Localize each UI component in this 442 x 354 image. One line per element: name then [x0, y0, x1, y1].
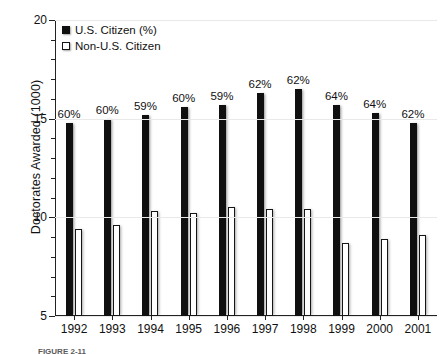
gridline [55, 119, 437, 120]
y-tick-label: 10 [34, 210, 47, 224]
x-tick [227, 316, 228, 320]
x-tick [74, 316, 75, 320]
bar-group: 59% [208, 20, 246, 316]
bar-non-us-citizen [419, 235, 426, 316]
y-tick [51, 79, 55, 80]
x-tick-label-2000: 2000 [366, 322, 393, 336]
y-tick [51, 138, 55, 139]
bar-non-us-citizen [113, 225, 120, 316]
x-tick-label-1997: 1997 [252, 322, 279, 336]
bar-non-us-citizen [190, 213, 197, 316]
x-tick [380, 316, 381, 320]
bar-us-citizen [219, 105, 226, 316]
y-tick [51, 257, 55, 258]
x-tick [303, 316, 304, 320]
bar-groups: 60%60%59%60%59%62%62%64%64%62% [55, 20, 437, 316]
y-tick [51, 99, 55, 100]
bar-us-citizen [142, 115, 149, 316]
x-tick-label-1992: 1992 [61, 322, 88, 336]
y-tick [51, 59, 55, 60]
x-tick [112, 316, 113, 320]
y-tick [51, 40, 55, 41]
bar-group: 60% [55, 20, 93, 316]
bar-group: 59% [131, 20, 169, 316]
bar-group: 60% [93, 20, 131, 316]
bar-data-label: 64% [363, 98, 386, 110]
x-tick-label-1996: 1996 [214, 322, 241, 336]
y-tick [51, 277, 55, 278]
bar-group: 64% [322, 20, 360, 316]
y-tick-label: 20 [34, 13, 47, 27]
x-tick [189, 316, 190, 320]
bar-us-citizen [372, 113, 379, 316]
bar-group: 62% [246, 20, 284, 316]
x-tick-label-1995: 1995 [175, 322, 202, 336]
bar-data-label: 60% [96, 104, 119, 116]
bar-data-label: 62% [287, 74, 310, 86]
bar-data-label: 64% [325, 90, 348, 102]
x-tick [151, 316, 152, 320]
bar-us-citizen [295, 89, 302, 316]
bar-us-citizen [66, 123, 73, 316]
legend-label-non-us-citizen: Non-U.S. Citizen [75, 38, 161, 54]
x-tick-label-2001: 2001 [405, 322, 432, 336]
gridline [55, 20, 437, 21]
bar-group: 62% [399, 20, 437, 316]
legend-swatch-dark-icon [62, 26, 70, 34]
bar-non-us-citizen [75, 229, 82, 316]
x-tick-label-1993: 1993 [99, 322, 126, 336]
bar-us-citizen [410, 123, 417, 316]
y-tick [51, 237, 55, 238]
bar-us-citizen [257, 93, 264, 316]
bar-data-label: 59% [210, 90, 233, 102]
y-axis-title: Doctorates Awarded (1000) [29, 37, 43, 277]
bar-non-us-citizen [381, 239, 388, 316]
chart-figure: Doctorates Awarded (1000) 60%60%59%60%59… [0, 0, 442, 354]
bar-non-us-citizen [304, 209, 311, 316]
legend-item-us-citizen: U.S. Citizen (%) [62, 22, 161, 38]
x-tick [418, 316, 419, 320]
bar-group: 64% [361, 20, 399, 316]
bar-us-citizen [333, 105, 340, 316]
legend-item-non-us-citizen: Non-U.S. Citizen [62, 38, 161, 54]
bar-non-us-citizen [151, 211, 158, 316]
x-tick [342, 316, 343, 320]
bar-data-label: 62% [249, 78, 272, 90]
bar-non-us-citizen [342, 243, 349, 316]
bar-us-citizen [181, 107, 188, 316]
bar-data-label: 60% [172, 92, 195, 104]
bar-non-us-citizen [228, 207, 235, 316]
legend-swatch-light-icon [62, 42, 70, 50]
x-tick-label-1994: 1994 [137, 322, 164, 336]
y-tick-label: 15 [34, 112, 47, 126]
y-tick [51, 158, 55, 159]
bar-data-label: 59% [134, 100, 157, 112]
y-tick [51, 178, 55, 179]
legend-label-us-citizen: U.S. Citizen (%) [75, 22, 157, 38]
x-tick-label-1999: 1999 [328, 322, 355, 336]
chart-legend: U.S. Citizen (%) Non-U.S. Citizen [62, 22, 161, 54]
bar-group: 62% [284, 20, 322, 316]
x-tick [265, 316, 266, 320]
gridline [55, 217, 437, 218]
y-tick [51, 198, 55, 199]
y-tick [51, 296, 55, 297]
bar-non-us-citizen [266, 209, 273, 316]
plot-area: 60%60%59%60%59%62%62%64%64%62% 5101520 1… [55, 20, 437, 316]
x-tick-label-1998: 1998 [290, 322, 317, 336]
y-tick-label: 5 [40, 309, 47, 323]
bar-group: 60% [170, 20, 208, 316]
figure-caption: FIGURE 2-11 [38, 347, 86, 354]
